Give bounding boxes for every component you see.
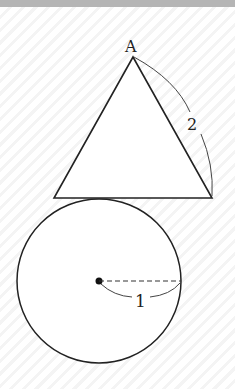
vertex-label-a: A bbox=[124, 37, 137, 56]
radius-label: 1 bbox=[135, 291, 146, 311]
side-length-label: 2 bbox=[187, 115, 197, 134]
geometry-figure: A 2 1 bbox=[0, 0, 235, 389]
